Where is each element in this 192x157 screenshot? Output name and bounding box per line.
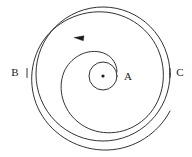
label-b: B bbox=[11, 66, 18, 78]
center-point-dot bbox=[101, 74, 104, 77]
spiral-curve bbox=[32, 12, 170, 150]
direction-arrow-icon bbox=[74, 36, 84, 41]
label-a: A bbox=[124, 70, 132, 82]
spiral-diagram-svg: A B C bbox=[0, 0, 192, 157]
figure-root: A B C bbox=[0, 0, 192, 157]
label-c: C bbox=[176, 66, 183, 78]
